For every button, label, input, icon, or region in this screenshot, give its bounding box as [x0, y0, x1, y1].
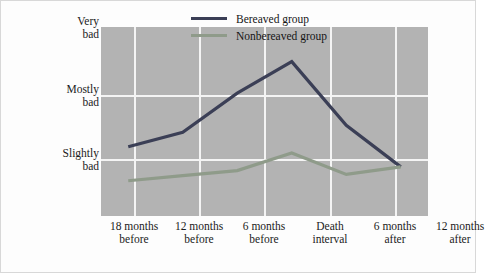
x-tick-label-line1: 12 months	[417, 220, 489, 233]
legend-item-label: Nonbereaved group	[236, 30, 327, 42]
data-lines	[101, 27, 428, 216]
legend-color-swatch	[191, 17, 227, 21]
y-tick-label-line1: Very	[31, 15, 99, 28]
x-tick-label-12-months-after: 12 months after	[417, 220, 489, 246]
legend: Bereaved group Nonbereaved group	[191, 10, 327, 44]
y-tick-label-line2: bad	[31, 96, 99, 109]
y-tick-label-line1: Slightly	[31, 147, 99, 160]
y-tick-label-line2: bad	[31, 28, 99, 41]
y-tick-label-very-bad: Very bad	[31, 15, 99, 40]
y-tick-label-line2: bad	[31, 160, 99, 173]
y-tick-label-line1: Mostly	[31, 83, 99, 96]
y-tick-label-mostly-bad: Mostly bad	[31, 83, 99, 108]
x-axis-tick-labels: 18 months before 12 months before 6 mont…	[101, 220, 428, 260]
y-tick-label-slightly-bad: Slightly bad	[31, 147, 99, 172]
line-series-nonbereaved-group	[128, 153, 401, 181]
x-tick-label-line2: after	[417, 233, 489, 246]
legend-item-label: Bereaved group	[236, 13, 309, 25]
plot-area	[101, 27, 428, 216]
line-series-bereaved-group	[128, 62, 401, 167]
y-axis-tick-labels: Very bad Mostly bad Slightly bad	[29, 1, 99, 273]
legend-color-swatch	[191, 34, 227, 38]
legend-item-bereaved-group: Bereaved group	[191, 10, 327, 27]
legend-item-nonbereaved-group: Nonbereaved group	[191, 27, 327, 44]
